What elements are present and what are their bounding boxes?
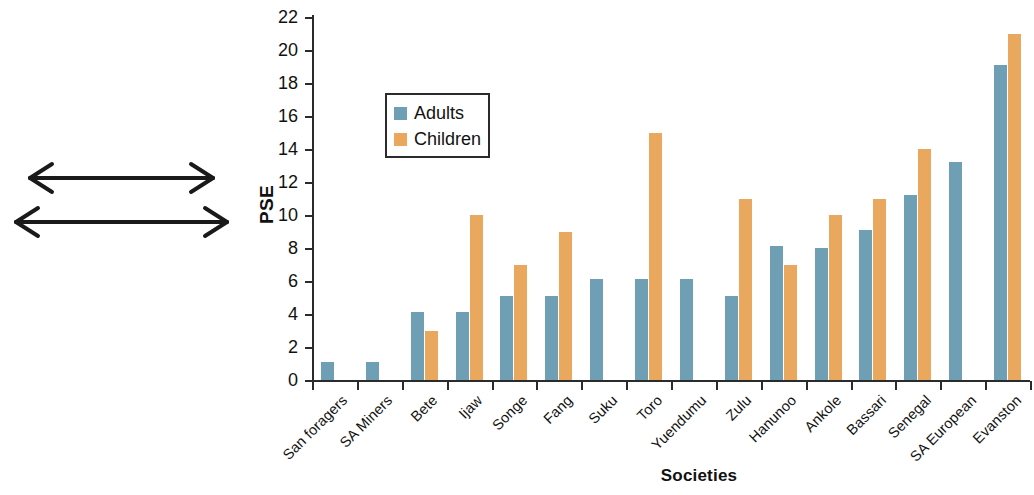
x-category-label-evanston: Evanston <box>969 392 1024 447</box>
x-category-label-suku: Suku <box>585 392 620 427</box>
figure-panel: PSE Societies 0246810121416182022 San fo… <box>0 0 1034 495</box>
x-category-label-songe: Songe <box>489 392 530 433</box>
x-category-label-ijaw: Ijaw <box>456 392 486 422</box>
x-category-label-toro: Toro <box>633 392 665 424</box>
x-category-label-ankole: Ankole <box>801 392 844 435</box>
legend-item-adults: Adults <box>394 100 481 126</box>
legend-swatch-adults <box>394 107 407 120</box>
chart-legend: Adults Children <box>385 93 490 158</box>
legend-swatch-children <box>394 133 407 146</box>
x-category-label-fang: Fang <box>540 392 575 427</box>
category-labels: San foragersSA MinersBeteIjawSongeFangSu… <box>0 0 1034 495</box>
x-category-label-bete: Bete <box>408 392 441 425</box>
legend-label-adults: Adults <box>414 104 464 122</box>
x-category-label-hanunoo: Hanunoo <box>746 392 799 445</box>
x-category-label-zulu: Zulu <box>723 392 755 424</box>
legend-item-children: Children <box>394 126 481 152</box>
legend-label-children: Children <box>414 130 481 148</box>
x-category-label-san-foragers: San foragers <box>280 392 351 463</box>
x-category-label-bassari: Bassari <box>843 392 889 438</box>
